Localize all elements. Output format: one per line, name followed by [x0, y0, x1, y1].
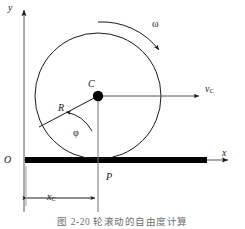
- radius-label: R: [58, 103, 64, 113]
- angular-velocity-label: ω: [152, 19, 159, 29]
- distance-subscript: C: [51, 195, 56, 202]
- velocity-subscript: C: [209, 87, 214, 94]
- angle-phi-label: φ: [73, 128, 79, 138]
- radius-line: [39, 96, 98, 127]
- figure-container: y x O C R φ ω P vC xC 图 2-20 轮滚动的自由度计算: [0, 0, 245, 229]
- x-axis-label: x: [222, 148, 226, 158]
- origin-label: O: [4, 155, 11, 165]
- figure-caption: 图 2-20 轮滚动的自由度计算: [0, 214, 245, 228]
- distance-label: xC: [47, 192, 56, 203]
- ground-surface-bar: [25, 157, 207, 163]
- angular-velocity-arc: [98, 22, 159, 50]
- center-point-label: C: [88, 79, 95, 89]
- contact-point-label: P: [106, 172, 112, 182]
- angle-arc-phi: [66, 112, 92, 131]
- rolling-wheel-diagram: [0, 0, 245, 229]
- velocity-label: vC: [205, 84, 214, 95]
- center-point-marker: [93, 91, 103, 101]
- y-axis-label: y: [8, 3, 12, 13]
